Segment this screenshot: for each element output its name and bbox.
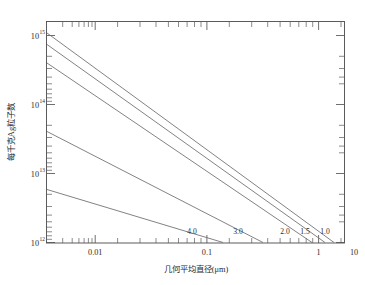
y-tick-label-1: 10 13	[31, 167, 45, 179]
y-tick-mantissa-1: 10	[31, 170, 39, 179]
x-tick-label-0: 0.01	[88, 248, 102, 257]
y-tick-exponent-1: 13	[40, 167, 46, 173]
curve-label-1-5: 1.5	[300, 227, 310, 236]
plot-frame	[47, 22, 345, 244]
x-tick-label-1: 0.1	[202, 248, 212, 257]
curve-label-3-0: 3.0	[233, 227, 243, 236]
curve-label-2-0: 2.0	[280, 227, 290, 236]
y-tick-mantissa-2: 10	[31, 101, 39, 110]
chart-figure: 0.01 0.1 1 10 10 15 10 14 10 13 10 12 4.…	[0, 0, 365, 285]
y-tick-exponent-0: 12	[40, 236, 46, 242]
y-tick-label-2: 10 14	[31, 98, 45, 110]
y-tick-exponent-3: 15	[40, 29, 46, 35]
curve-1-0	[47, 33, 334, 243]
curve-label-1-0: 1.0	[320, 227, 330, 236]
curve-1-5	[47, 45, 325, 243]
y-axis-ticks	[47, 36, 344, 243]
y-axis-title: 每千克Ag粒子数	[6, 102, 16, 161]
y-tick-label-3: 10 15	[31, 29, 45, 41]
curve-label-4-0: 4.0	[187, 227, 197, 236]
chart-svg: 0.01 0.1 1 10 10 15 10 14 10 13 10 12 4.…	[0, 0, 365, 285]
curve-series	[47, 33, 334, 243]
x-tick-label-2: 1	[317, 248, 321, 257]
x-axis-ticks	[63, 22, 341, 243]
y-tick-mantissa-0: 10	[31, 239, 39, 248]
y-tick-label-0: 10 12	[31, 236, 45, 248]
y-tick-exponent-2: 14	[40, 98, 46, 104]
curve-2-0	[47, 63, 312, 243]
y-tick-mantissa-3: 10	[31, 32, 39, 41]
x-axis-title: 几何平均直径(μm)	[164, 264, 229, 274]
x-tick-label-3: 10	[350, 248, 358, 257]
